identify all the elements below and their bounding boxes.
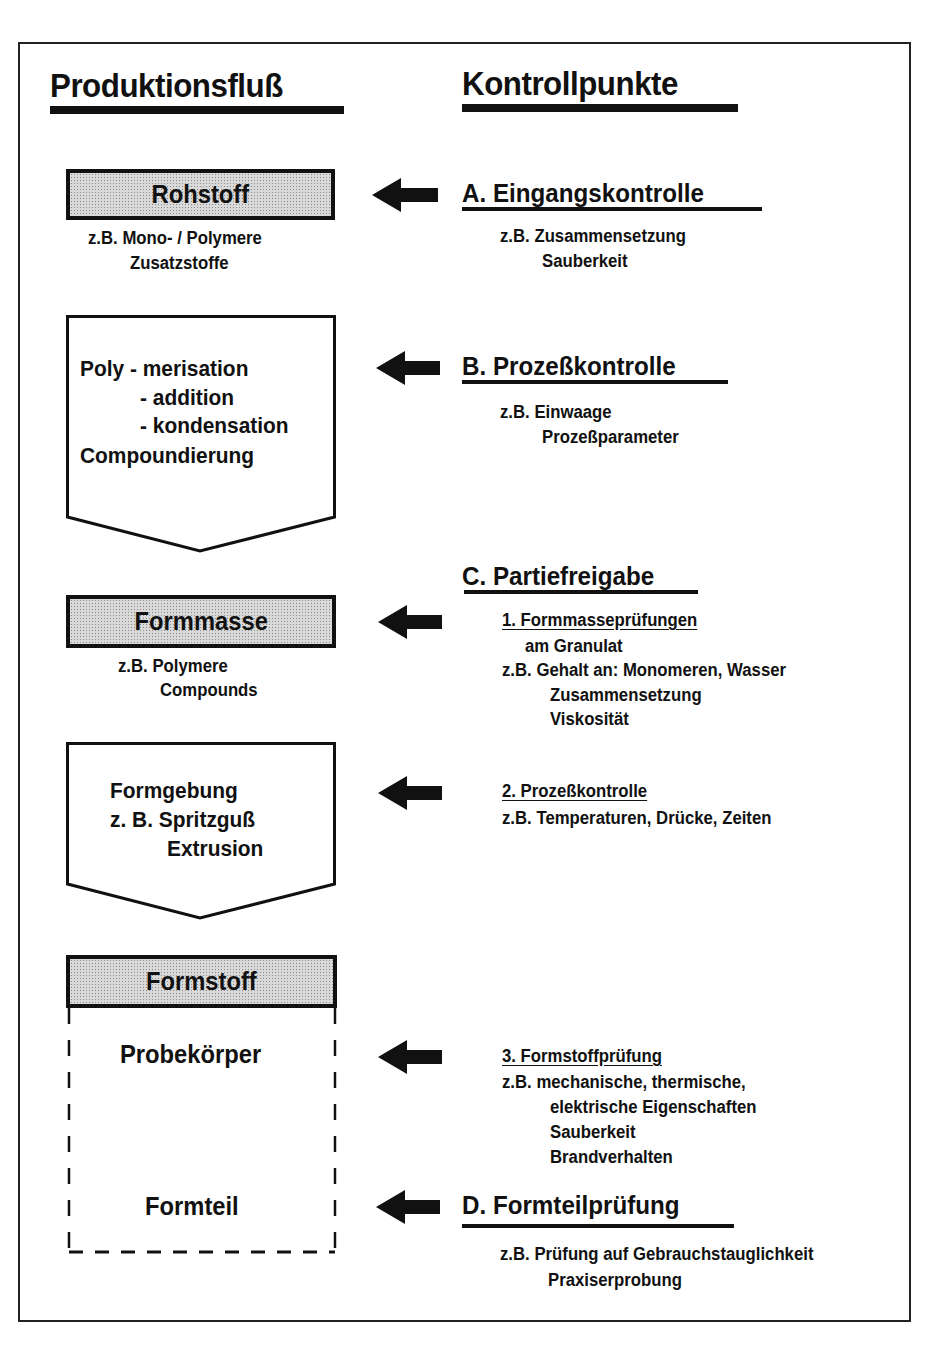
arrow-left-icon	[378, 776, 442, 810]
arrow-left-icon	[372, 178, 438, 212]
control-c3-title: 3. Formstoffprüfung	[502, 1046, 662, 1067]
rohstoff-example-2: Zusatzstoffe	[130, 251, 229, 275]
control-c2-line-1: z.B. Temperaturen, Drücke, Zeiten	[502, 806, 771, 830]
formstoff-item-probekoerper: Probekörper	[120, 1040, 261, 1069]
process2-line-2: z. B. Spritzguß	[110, 805, 255, 834]
control-b-title: B. Prozeßkontrolle	[462, 351, 676, 382]
arrow-left-icon	[376, 1190, 440, 1224]
control-c3-line-3: Sauberkeit	[550, 1120, 636, 1144]
formstoff-label: Formstoff	[146, 967, 257, 996]
production-flow-heading: Produktionsfluß	[50, 66, 283, 105]
control-points-underline	[462, 104, 738, 112]
control-a-example-2: Sauberkeit	[542, 249, 628, 273]
formmasse-box: Formmasse	[66, 595, 336, 648]
control-c3-line-1: z.B. mechanische, thermische,	[502, 1070, 746, 1094]
process2-line-3: Extrusion	[167, 834, 263, 863]
control-c1-line-2: z.B. Gehalt an: Monomeren, Wasser	[502, 658, 786, 682]
production-flow-underline	[50, 106, 344, 114]
formstoff-box: Formstoff	[66, 955, 337, 1008]
rohstoff-box: Rohstoff	[66, 169, 335, 220]
control-d-example-1: z.B. Prüfung auf Gebrauchstauglichkeit	[500, 1242, 813, 1266]
rohstoff-example-1: z.B. Mono- / Polymere	[88, 226, 262, 250]
control-c1-line-3: Zusammensetzung	[550, 683, 702, 707]
control-c1-title: 1. Formmasseprüfungen	[502, 610, 697, 631]
formmasse-label: Formmasse	[134, 607, 267, 636]
control-d-title: D. Formteilprüfung	[462, 1190, 680, 1221]
process1-line-3: - kondensation	[140, 411, 289, 440]
arrow-left-icon	[378, 1040, 442, 1074]
formmasse-example-2: Compounds	[160, 678, 258, 702]
control-b-underline	[462, 380, 728, 384]
control-a-example-1: z.B. Zusammensetzung	[500, 224, 686, 248]
control-b-example-2: Prozeßparameter	[542, 425, 679, 449]
control-points-heading: Kontrollpunkte	[462, 64, 678, 103]
arrow-left-icon	[376, 351, 440, 385]
rohstoff-label: Rohstoff	[152, 180, 250, 209]
control-c1-line-1: am Granulat	[525, 634, 623, 658]
control-c-underline	[464, 590, 698, 594]
formstoff-item-formteil: Formteil	[145, 1192, 239, 1221]
process1-line-2: - addition	[140, 383, 234, 412]
control-c1-line-4: Viskosität	[550, 707, 629, 731]
control-a-title: A. Eingangskontrolle	[462, 178, 704, 209]
control-a-underline	[462, 207, 762, 211]
control-c2-title: 2. Prozeßkontrolle	[502, 781, 647, 802]
control-d-underline	[462, 1224, 734, 1228]
control-d-example-2: Praxiserprobung	[548, 1268, 682, 1292]
process2-line-1: Formgebung	[110, 776, 238, 805]
control-c3-line-2: elektrische Eigenschaften	[550, 1095, 757, 1119]
process1-line-4: Compoundierung	[80, 441, 254, 470]
control-c3-line-4: Brandverhalten	[550, 1145, 673, 1169]
process1-line-1: Poly - merisation	[80, 354, 248, 383]
control-b-example-1: z.B. Einwaage	[500, 400, 612, 424]
formmasse-example-1: z.B. Polymere	[118, 654, 228, 678]
arrow-left-icon	[378, 605, 442, 639]
control-c-title: C. Partiefreigabe	[462, 561, 654, 592]
